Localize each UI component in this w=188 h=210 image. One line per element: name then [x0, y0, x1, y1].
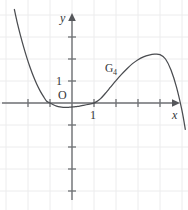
x-tick-label-1: 1: [90, 108, 96, 122]
x-axis-label: x: [171, 108, 178, 122]
x-axis: [2, 99, 180, 107]
y-tick-label-1: 1: [56, 74, 62, 88]
y-axis-label: y: [59, 11, 66, 25]
graph-canvas: y x O 1 1 G 4: [0, 0, 188, 210]
origin-label: O: [58, 88, 67, 102]
curve-label-subscript: 4: [113, 68, 117, 77]
function-graph-figure: y x O 1 1 G 4: [0, 0, 188, 210]
x-axis-arrowhead: [172, 99, 180, 107]
curve-label: G 4: [105, 62, 117, 77]
y-axis-arrowhead: [68, 13, 76, 21]
